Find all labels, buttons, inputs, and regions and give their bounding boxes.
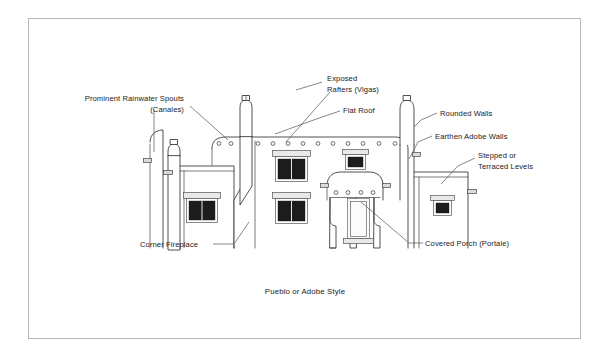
label-earthen-adobe-walls: Earthen Adobe Walls: [435, 132, 508, 141]
viga: [229, 142, 233, 146]
door-threshold: [344, 239, 374, 244]
canale-spout-right: [413, 153, 421, 157]
viga: [361, 142, 365, 146]
label-canales-line2: (Canales): [150, 105, 184, 114]
viga: [371, 191, 375, 195]
canale-spout-left: [144, 159, 152, 163]
viga: [346, 191, 350, 195]
architectural-diagram: Prominent Rainwater Spouts (Canales) Exp…: [0, 0, 610, 355]
left-chimney-cap: [171, 140, 178, 145]
right-chimney-cap: [404, 96, 411, 101]
viga: [256, 142, 260, 146]
right-chimney-shaft: [400, 100, 414, 145]
main-chimney-shaft: [240, 100, 252, 137]
viga: [301, 142, 305, 146]
figure-root: Prominent Rainwater Spouts (Canales) Exp…: [0, 0, 610, 355]
label-corner-fireplace: Corner Fireplace: [140, 240, 198, 249]
window-right-wing: [431, 196, 455, 216]
viga: [334, 191, 338, 195]
window-left-wing: [184, 193, 221, 223]
viga: [286, 142, 290, 146]
viga: [359, 191, 363, 195]
window-lintel: [431, 196, 455, 201]
canale-spout-chimney: [164, 171, 173, 175]
label-vigas-line2: Rafters (Vigas): [327, 85, 379, 94]
window-above-porch: [343, 150, 369, 170]
viga: [346, 142, 350, 146]
window-glass: [348, 157, 363, 167]
label-covered-porch: Covered Porch (Portale): [425, 239, 510, 248]
window-lintel: [184, 193, 221, 199]
window-main-upper: [273, 151, 311, 182]
canale-spout-porch-left: [321, 184, 329, 188]
label-canales-line1: Prominent Rainwater Spouts: [85, 94, 184, 103]
canale-spout-wing: [468, 190, 477, 194]
canale-spout-porch-right: [383, 184, 391, 188]
viga: [377, 142, 381, 146]
window-main-lower: [273, 193, 311, 224]
label-rounded-walls: Rounded Walls: [440, 109, 493, 118]
label-stepped-levels-line1: Stepped or: [478, 151, 517, 160]
figure-caption: Pueblo or Adobe Style: [265, 287, 345, 296]
viga: [217, 142, 221, 146]
left-chimney-body-top: [168, 144, 180, 156]
window-lintel: [273, 151, 311, 157]
viga: [393, 142, 397, 146]
label-flat-roof: Flat Roof: [343, 106, 375, 115]
label-vigas-line1: Exposed: [327, 74, 357, 83]
window-lintel: [343, 150, 369, 155]
left-chimney-shaft: [168, 156, 180, 250]
viga: [316, 142, 320, 146]
label-stepped-levels-line2: Terraced Levels: [478, 162, 533, 171]
porch-door: [344, 199, 374, 244]
viga: [331, 142, 335, 146]
window-glass: [436, 203, 449, 213]
window-lintel: [273, 193, 311, 199]
viga: [271, 142, 275, 146]
door-leaf: [351, 202, 367, 237]
